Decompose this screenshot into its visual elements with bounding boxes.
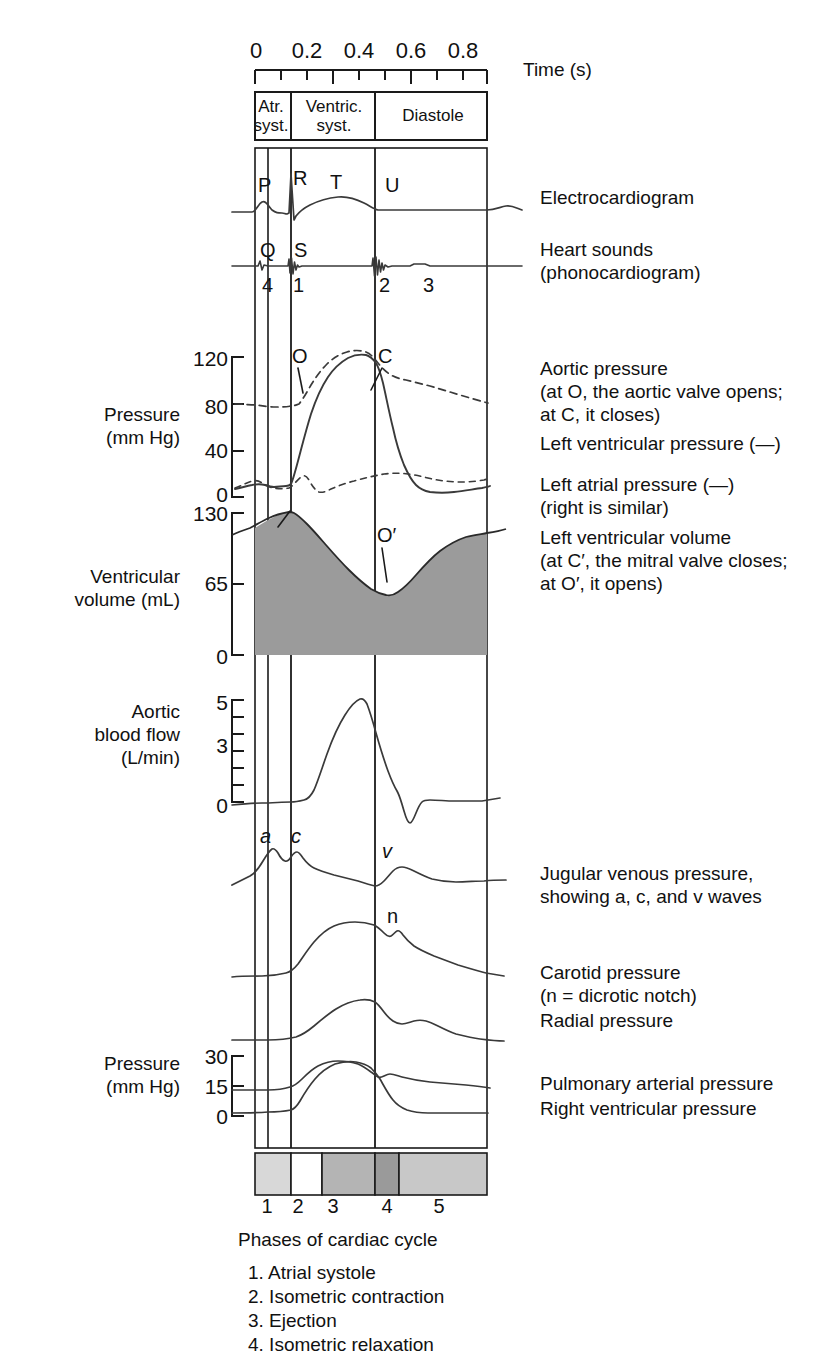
la-pressure-curve	[235, 473, 490, 492]
leader-C	[371, 368, 382, 390]
leader-O	[298, 368, 303, 393]
phase-header-frame	[255, 92, 487, 140]
pressure-axis-bracket	[232, 357, 244, 497]
phase-segment-4	[375, 1153, 399, 1195]
right-pressure-axis-bracket	[232, 1056, 244, 1116]
time-axis-ticks	[255, 70, 487, 84]
lv-volume-area	[232, 512, 506, 655]
jvp-curve	[232, 849, 506, 886]
phase-segment-1	[255, 1153, 291, 1195]
radial-pressure-curve	[232, 1000, 504, 1041]
carotid-pressure-curve	[232, 922, 504, 977]
phase-bar	[255, 1153, 487, 1195]
phase-header-dividers	[291, 92, 375, 140]
ecg-trace	[232, 174, 522, 220]
flow-axis-bracket	[232, 700, 244, 802]
pulmonary-arterial-pressure-curve	[232, 1061, 490, 1090]
aortic-flow-curve	[232, 699, 500, 823]
right-ventricular-pressure-curve	[232, 1062, 488, 1113]
phonocardiogram-trace	[232, 257, 522, 276]
aortic-pressure-curve	[235, 351, 488, 408]
phase-segment-3	[322, 1153, 375, 1195]
phase-segment-5	[399, 1153, 487, 1195]
phase-segment-2	[291, 1153, 322, 1195]
lv-pressure-curve	[235, 355, 490, 493]
leader-O-prime	[382, 548, 387, 582]
